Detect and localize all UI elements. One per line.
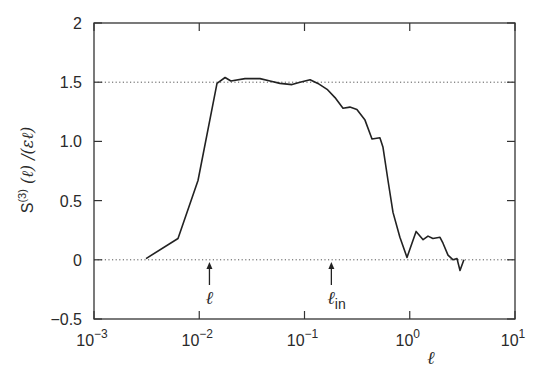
x-tick-label: 100 bbox=[396, 327, 421, 349]
annotations: ℓℓin bbox=[205, 262, 345, 312]
y-label-sup: (3) bbox=[16, 189, 28, 202]
x-axis-label: ℓ bbox=[427, 347, 435, 368]
annotation-label: ℓin bbox=[327, 287, 345, 312]
annotation-label: ℓ bbox=[205, 287, 213, 308]
y-tick-label: 0.5 bbox=[60, 193, 82, 210]
y-axis-label: S(3) (ℓ) /(εℓ) bbox=[16, 127, 37, 214]
y-tick-label: 1.5 bbox=[60, 74, 82, 91]
x-tick-label: 10−3 bbox=[76, 327, 108, 349]
svg-text:S(3) (ℓ) /(εℓ): S(3) (ℓ) /(εℓ) bbox=[16, 127, 37, 214]
y-tick-label: 1.0 bbox=[60, 133, 82, 150]
y-tick-labels: −0.500.51.01.52 bbox=[50, 15, 82, 328]
y-label-s: S bbox=[19, 203, 36, 214]
y-tick-label: 0 bbox=[73, 252, 82, 269]
y-tick-label: 2 bbox=[73, 15, 82, 32]
x-tick-label: 10−1 bbox=[287, 327, 319, 349]
axis-ticks bbox=[94, 23, 515, 319]
y-tick-label: −0.5 bbox=[50, 311, 82, 328]
y-label-rest: (ℓ) /(εℓ) bbox=[18, 127, 37, 189]
plot-frame bbox=[94, 23, 515, 319]
reference-lines bbox=[94, 82, 515, 260]
chart: −0.500.51.01.52 10−310−210−1100101 ℓℓin … bbox=[0, 0, 549, 387]
x-tick-label: 10−2 bbox=[182, 327, 214, 349]
x-tick-labels: 10−310−210−1100101 bbox=[76, 327, 525, 349]
data-line bbox=[146, 78, 464, 271]
arrow-head-icon bbox=[206, 262, 212, 269]
arrow-head-icon bbox=[328, 262, 334, 269]
x-tick-label: 101 bbox=[501, 327, 526, 349]
